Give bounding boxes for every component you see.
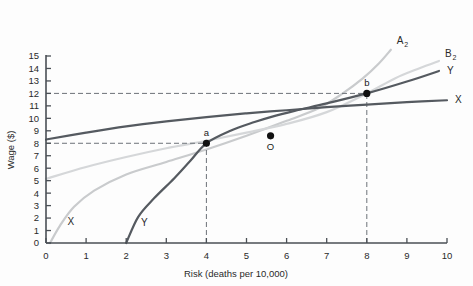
curve-label-x: X <box>455 94 462 105</box>
y-tick-label-11: 11 <box>29 100 39 111</box>
chart-figure: 0123456789100123456789101112131415 aOb X… <box>0 0 473 286</box>
x-tick-label-8: 8 <box>364 250 369 261</box>
x-tick-label-9: 9 <box>404 250 409 261</box>
y-tick-label-2: 2 <box>34 212 39 223</box>
data-point-label-a: a <box>204 127 210 138</box>
x-axis-label: Risk (deaths per 10,000) <box>184 268 288 279</box>
curve-label-x-lower-left: X <box>68 216 75 227</box>
curve-label-a2: A <box>397 35 404 46</box>
x-tick-label-10: 10 <box>442 250 453 261</box>
x-tick-label-7: 7 <box>324 250 329 261</box>
y-tick-label-5: 5 <box>34 175 39 186</box>
wage-offer-curves-group <box>46 71 447 243</box>
text-labels-group: XYA2B2XY <box>68 35 462 228</box>
data-point-label-b: b <box>364 77 369 88</box>
y-tick-label-6: 6 <box>34 163 39 174</box>
y-tick-label-3: 3 <box>34 200 39 211</box>
x-tick-label-4: 4 <box>204 250 209 261</box>
curve-label-y: Y <box>447 65 454 76</box>
y-tick-label-15: 15 <box>28 50 39 61</box>
curve-label-y-lower-left: Y <box>141 217 148 228</box>
y-tick-label-14: 14 <box>28 63 39 74</box>
indifference-curves-group <box>46 50 439 243</box>
data-point-label-O: O <box>267 141 274 152</box>
curve-label-a2-subscript: 2 <box>404 41 408 48</box>
curve-y <box>126 71 439 243</box>
y-tick-label-13: 13 <box>28 75 39 86</box>
data-point-b <box>363 90 370 97</box>
y-axis-label: Wage ($) <box>5 131 16 170</box>
x-tick-label-6: 6 <box>284 250 289 261</box>
x-tick-label-5: 5 <box>244 250 249 261</box>
curve-label-b2-subscript: 2 <box>452 54 456 61</box>
y-tick-label-8: 8 <box>34 138 39 149</box>
curve-a2 <box>50 50 391 243</box>
curve-b2 <box>46 61 439 179</box>
y-tick-label-12: 12 <box>28 88 39 99</box>
y-tick-label-0: 0 <box>34 237 39 248</box>
curve-label-b2: B <box>445 48 452 59</box>
y-tick-label-4: 4 <box>34 188 39 199</box>
y-tick-label-9: 9 <box>34 125 39 136</box>
data-point-a <box>203 140 210 147</box>
y-tick-label-1: 1 <box>34 225 39 236</box>
y-tick-label-10: 10 <box>28 113 39 124</box>
wage-risk-indifference-chart: 0123456789100123456789101112131415 aOb X… <box>0 0 473 286</box>
x-tick-label-1: 1 <box>83 250 88 261</box>
x-tick-label-0: 0 <box>43 250 48 261</box>
data-point-O <box>267 132 274 139</box>
x-tick-label-2: 2 <box>124 250 129 261</box>
y-tick-label-7: 7 <box>34 150 39 161</box>
x-tick-label-3: 3 <box>164 250 169 261</box>
